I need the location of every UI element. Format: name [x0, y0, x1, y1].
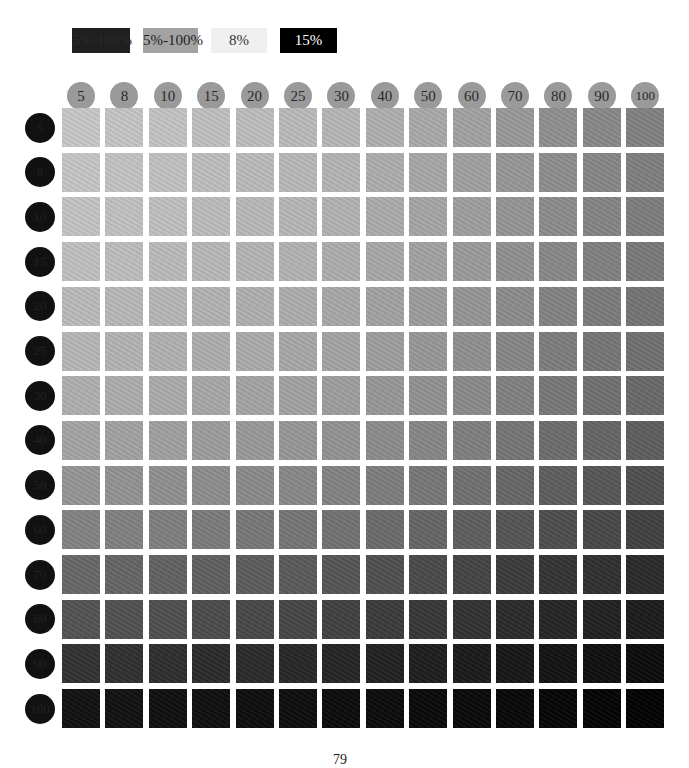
tint-swatch [149, 108, 187, 147]
tint-swatch [583, 376, 621, 415]
tint-swatch [366, 555, 404, 594]
tint-swatch [322, 332, 360, 371]
tint-swatch [236, 644, 274, 683]
tint-swatch [105, 421, 143, 460]
tint-swatch [105, 466, 143, 505]
tint-swatch [322, 510, 360, 549]
tint-swatch [236, 108, 274, 147]
tint-swatch [236, 242, 274, 281]
legend-item: 5%-100% [72, 28, 130, 53]
tint-swatch [192, 242, 230, 281]
column-header: 25 [284, 82, 312, 110]
tint-swatch [496, 153, 534, 192]
tint-swatch [453, 421, 491, 460]
tint-swatch [236, 421, 274, 460]
tint-swatch [322, 108, 360, 147]
tint-swatch [322, 600, 360, 639]
tint-swatch [366, 287, 404, 326]
tint-swatch [583, 332, 621, 371]
column-header: 10 [154, 82, 182, 110]
tint-swatch [583, 510, 621, 549]
tint-swatch [496, 510, 534, 549]
legend-item: 15% [280, 28, 337, 53]
column-header: 50 [414, 82, 442, 110]
tint-swatch [105, 510, 143, 549]
tint-swatch [496, 689, 534, 728]
row-header: 70 [25, 560, 55, 590]
tint-swatch [236, 376, 274, 415]
tint-swatch [583, 287, 621, 326]
column-header: 60 [458, 82, 486, 110]
tint-swatch [105, 287, 143, 326]
tint-swatch [539, 242, 577, 281]
tint-swatch [366, 644, 404, 683]
tint-swatch [149, 466, 187, 505]
tint-swatch [539, 600, 577, 639]
tint-swatch [583, 555, 621, 594]
tint-swatch [366, 421, 404, 460]
row-header: 90 [25, 649, 55, 679]
tint-swatch [539, 421, 577, 460]
tint-swatch [539, 197, 577, 236]
tint-swatch [322, 287, 360, 326]
tint-swatch [626, 287, 664, 326]
tint-swatch [626, 153, 664, 192]
tint-swatch [366, 510, 404, 549]
tint-swatch [539, 287, 577, 326]
column-header: 15 [197, 82, 225, 110]
row-header: 10 [25, 202, 55, 232]
tint-swatch [236, 466, 274, 505]
tint-swatch [539, 555, 577, 594]
column-header: 20 [241, 82, 269, 110]
row-header: 40 [25, 425, 55, 455]
tint-swatch [105, 689, 143, 728]
tint-swatch [409, 332, 447, 371]
column-header: 90 [588, 82, 616, 110]
tint-swatch [626, 644, 664, 683]
tint-swatch [366, 376, 404, 415]
tint-swatch [62, 332, 100, 371]
tint-swatch [62, 555, 100, 594]
tint-swatch [366, 197, 404, 236]
tint-swatch [496, 466, 534, 505]
tint-swatch [366, 242, 404, 281]
tint-swatch [366, 108, 404, 147]
tint-swatch [279, 332, 317, 371]
tint-swatch [62, 197, 100, 236]
tint-swatch [453, 197, 491, 236]
tint-swatch [192, 108, 230, 147]
tint-swatch [496, 555, 534, 594]
tint-swatch [192, 421, 230, 460]
tint-swatch [149, 644, 187, 683]
tint-swatch [539, 153, 577, 192]
tint-swatch [583, 644, 621, 683]
tint-swatch [236, 555, 274, 594]
tint-swatch [453, 376, 491, 415]
tint-swatch [496, 197, 534, 236]
tint-swatch [62, 644, 100, 683]
tint-swatch [236, 600, 274, 639]
tint-swatch [626, 332, 664, 371]
tint-swatch [149, 600, 187, 639]
tint-swatch [149, 421, 187, 460]
tint-swatch [496, 108, 534, 147]
tint-swatch [105, 555, 143, 594]
tint-swatch [626, 466, 664, 505]
tint-swatch [626, 689, 664, 728]
tint-swatch [62, 466, 100, 505]
tint-swatch [279, 421, 317, 460]
row-header: 60 [25, 515, 55, 545]
row-header: 50 [25, 470, 55, 500]
tint-swatch [105, 197, 143, 236]
tint-swatch [409, 555, 447, 594]
row-header: 80 [25, 604, 55, 634]
tint-swatch [192, 376, 230, 415]
tint-swatch [322, 197, 360, 236]
tint-swatch [583, 242, 621, 281]
row-header: 30 [25, 381, 55, 411]
tint-swatch [192, 510, 230, 549]
tint-swatch [279, 197, 317, 236]
tint-swatch [409, 376, 447, 415]
tint-swatch [192, 689, 230, 728]
tint-swatch [496, 376, 534, 415]
